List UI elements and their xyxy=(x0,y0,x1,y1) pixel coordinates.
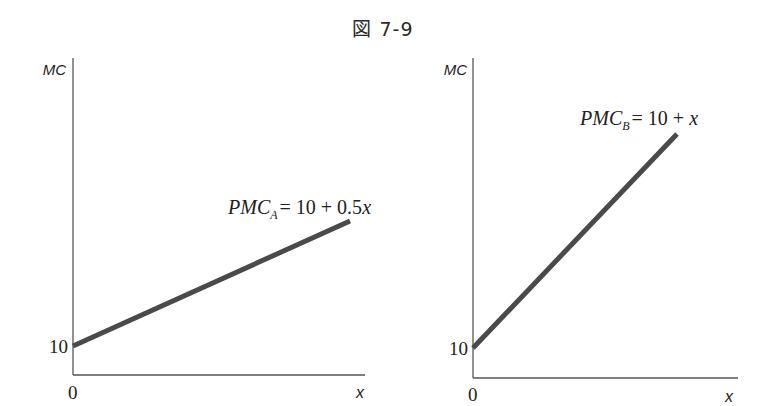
origin-label: 0 xyxy=(68,382,78,403)
origin-label: 0 xyxy=(468,384,478,405)
y-axis-label: MC xyxy=(444,61,467,78)
chart-right: MC x 0 10 PMCB= 10 + x xyxy=(444,58,738,405)
chart-left: MC x 0 10 PMCA= 10 + 0.5x xyxy=(43,58,371,403)
y-tick-10: 10 xyxy=(49,336,68,357)
x-axis-label: x xyxy=(355,384,365,401)
y-tick-10: 10 xyxy=(449,338,468,359)
pmc-b-equation: PMCB= 10 + x xyxy=(579,107,698,133)
x-axis-label: x xyxy=(724,388,734,405)
pmc-a-line xyxy=(73,221,350,346)
figure-canvas: MC x 0 10 PMCA= 10 + 0.5x MC x 0 10 PMCB… xyxy=(0,0,766,406)
y-axis-label: MC xyxy=(43,61,66,78)
pmc-b-line xyxy=(473,134,677,348)
pmc-a-equation: PMCA= 10 + 0.5x xyxy=(227,196,371,222)
